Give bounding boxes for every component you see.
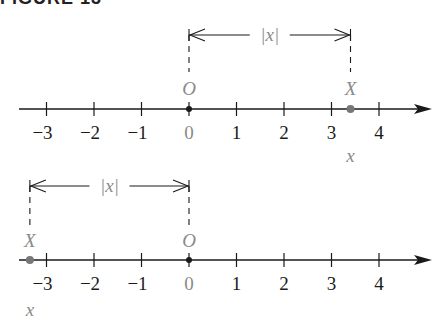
tick-label: 3 — [327, 122, 337, 143]
tick-label: 0 — [184, 273, 194, 294]
tick-label: 3 — [327, 273, 337, 294]
point-label: X — [344, 78, 358, 99]
tick-label: −1 — [127, 122, 147, 143]
origin-label: O — [182, 230, 196, 251]
coordinate-label: x — [25, 299, 35, 320]
number-line-negative-case — [19, 180, 432, 267]
origin-dot — [186, 106, 192, 112]
distance-label: |x| — [260, 24, 279, 45]
point-dot — [347, 105, 355, 113]
tick-label: 4 — [374, 122, 384, 143]
number-line-positive-case — [19, 29, 432, 116]
tick-label: 4 — [374, 273, 384, 294]
origin-label: O — [182, 78, 196, 99]
tick-label: 2 — [279, 273, 289, 294]
tick-label: 1 — [232, 273, 242, 294]
coordinate-label: x — [345, 145, 355, 166]
origin-dot — [186, 257, 192, 263]
tick-label: 2 — [279, 122, 289, 143]
tick-label: −2 — [80, 273, 100, 294]
distance-label: |x| — [100, 175, 119, 196]
tick-label: 1 — [232, 122, 242, 143]
tick-label: 0 — [184, 122, 194, 143]
tick-label: −3 — [32, 273, 52, 294]
point-label: X — [23, 230, 37, 251]
number-line-diagrams: −3−2−101234OXx|x|−3−2−101234OXx|x| — [0, 0, 447, 332]
tick-label: −3 — [32, 122, 52, 143]
figure: FIGURE 13 −3−2−101234OXx|x|−3−2−101234OX… — [0, 0, 447, 332]
tick-label: −1 — [127, 273, 147, 294]
point-dot — [26, 256, 34, 264]
tick-label: −2 — [80, 122, 100, 143]
